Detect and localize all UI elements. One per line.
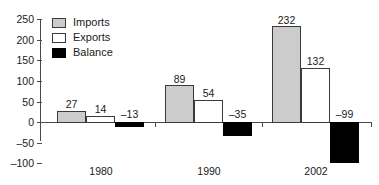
y-axis-label-text: 100 <box>16 75 34 87</box>
y-axis-label-neg100: –100 <box>0 158 34 168</box>
legend-item-balance: Balance <box>52 46 113 59</box>
x-axis-tick-1 <box>155 123 156 127</box>
y-axis-tick-neg100 <box>37 163 42 164</box>
bar-1980-imports <box>57 111 86 123</box>
x-axis-label-text: 1990 <box>197 165 220 177</box>
bar-value-text: –35 <box>229 108 247 120</box>
bar-value-1980-exports: 14 <box>86 104 115 115</box>
y-axis-label-text: 50 <box>22 96 34 108</box>
bar-value-2002-exports: 132 <box>299 56 332 67</box>
bar-value-text: –13 <box>121 108 139 120</box>
bar-value-text: –99 <box>336 108 354 120</box>
y-axis-label-text: 200 <box>16 34 34 46</box>
bar-value-text: 27 <box>66 98 78 110</box>
bar-value-text: 89 <box>174 73 186 85</box>
y-axis-label-0: 0 <box>0 117 34 127</box>
bar-chart: 250 200 150 100 50 0 –50 –100 27 14 –13 … <box>0 0 379 185</box>
bar-value-1990-exports: 54 <box>194 88 223 99</box>
bar-value-text: 232 <box>278 14 296 26</box>
y-axis-tick-150 <box>37 60 42 61</box>
bar-1980-exports <box>86 116 115 123</box>
x-axis-label-text: 2002 <box>304 165 327 177</box>
y-axis-tick-100 <box>37 81 42 82</box>
x-axis-label-2002: 2002 <box>291 166 341 177</box>
bar-2002-imports <box>272 26 301 123</box>
legend-swatch-exports-icon <box>52 33 66 43</box>
x-axis-label-text: 1980 <box>89 165 112 177</box>
bar-1990-imports <box>165 85 194 123</box>
y-axis-label-250: 250 <box>0 14 34 24</box>
legend-label-balance: Balance <box>73 47 113 58</box>
bar-value-1990-balance: –35 <box>221 109 254 120</box>
bar-2002-exports <box>301 68 330 123</box>
x-axis-tick-2 <box>262 123 263 127</box>
y-axis-label-50: 50 <box>0 97 34 107</box>
bar-1980-balance <box>115 122 144 127</box>
bar-value-2002-imports: 232 <box>270 15 303 26</box>
y-axis-label-neg50: –50 <box>0 138 34 148</box>
y-axis-label-200: 200 <box>0 35 34 45</box>
legend: Imports Exports Balance <box>52 16 113 61</box>
legend-item-exports: Exports <box>52 31 113 44</box>
bar-2002-balance <box>330 122 359 163</box>
y-axis-label-text: 0 <box>28 116 34 128</box>
y-axis-label-text: 150 <box>16 54 34 66</box>
legend-label-exports: Exports <box>73 32 110 43</box>
y-axis-label-text: 250 <box>16 13 34 25</box>
bar-value-text: 14 <box>95 103 107 115</box>
y-axis-label-text: –100 <box>11 157 34 169</box>
y-axis-tick-neg50 <box>37 143 42 144</box>
bar-value-1980-balance: –13 <box>113 109 146 120</box>
x-axis-label-1990: 1990 <box>184 166 234 177</box>
bar-value-2002-balance: –99 <box>328 109 361 120</box>
legend-swatch-balance-icon <box>52 48 66 58</box>
y-axis-tick-200 <box>37 40 42 41</box>
bar-value-1980-imports: 27 <box>57 99 86 110</box>
y-axis-label-150: 150 <box>0 55 34 65</box>
bar-1990-exports <box>194 100 223 123</box>
bar-value-text: 54 <box>203 87 215 99</box>
x-axis-tick-end <box>371 123 372 127</box>
bar-value-text: 132 <box>307 55 325 67</box>
y-axis-tick-50 <box>37 102 42 103</box>
legend-item-imports: Imports <box>52 16 113 29</box>
bar-1990-balance <box>223 122 252 136</box>
x-axis-label-1980: 1980 <box>76 166 126 177</box>
bar-value-1990-imports: 89 <box>165 74 194 85</box>
legend-label-imports: Imports <box>73 17 110 28</box>
legend-swatch-imports-icon <box>52 18 66 28</box>
y-axis-label-text: –50 <box>16 137 34 149</box>
y-axis-label-100: 100 <box>0 76 34 86</box>
y-axis-tick-250 <box>37 19 42 20</box>
